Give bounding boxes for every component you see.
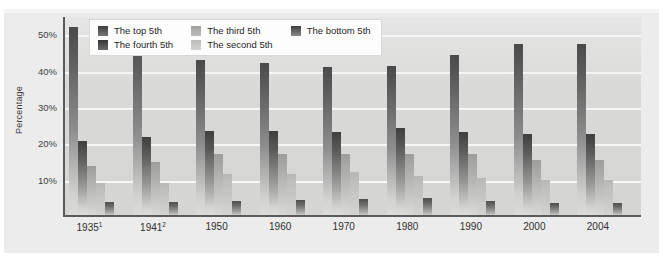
bar: [232, 201, 241, 215]
legend-item[interactable]: The fourth 5th: [98, 39, 173, 50]
bar: [214, 154, 223, 215]
bar: [260, 63, 269, 215]
bar: [613, 203, 622, 215]
legend-item[interactable]: The third 5th: [191, 25, 273, 36]
bar: [405, 154, 414, 215]
legend-swatch-icon: [291, 26, 301, 36]
legend-swatch-icon: [191, 26, 201, 36]
bar: [151, 162, 160, 215]
x-axis-tick-label: 1970: [333, 221, 355, 232]
bar: [414, 176, 423, 215]
bar: [133, 37, 142, 215]
bar: [350, 172, 359, 215]
bar-group: [514, 17, 559, 215]
bar: [604, 180, 613, 215]
y-axis-tick-label: 20%: [1, 138, 57, 149]
bar: [341, 154, 350, 215]
bar: [96, 183, 105, 215]
bar: [359, 199, 368, 215]
bar: [541, 180, 550, 215]
bar: [514, 44, 523, 215]
x-axis-tick-label: 2004: [587, 221, 609, 232]
bar: [550, 203, 559, 215]
bar: [196, 60, 205, 215]
chart-screenshot: Percentage 10%20%30%40%50% 1935119412195…: [0, 0, 663, 265]
bar: [486, 201, 495, 215]
bar: [586, 134, 595, 215]
bar: [87, 166, 96, 215]
x-axis-tick-label: 1990: [460, 221, 482, 232]
legend-swatch-icon: [98, 40, 108, 50]
legend-item-label: The second 5th: [207, 39, 273, 50]
legend-item-label: The third 5th: [207, 25, 260, 36]
legend-item[interactable]: The top 5th: [98, 25, 173, 36]
y-axis-tick-label: 40%: [1, 66, 57, 77]
bar: [477, 178, 486, 215]
bar: [105, 202, 114, 215]
bar-group: [450, 17, 495, 215]
x-axis-tick-label: 2000: [523, 221, 545, 232]
bar: [468, 154, 477, 215]
legend-item[interactable]: The second 5th: [191, 39, 273, 50]
bar: [169, 202, 178, 215]
bar: [160, 183, 169, 215]
bar: [577, 44, 586, 215]
bar: [423, 198, 432, 215]
x-label-footnote: 1: [99, 221, 103, 228]
y-axis-tick-labels: 10%20%30%40%50%: [0, 17, 57, 217]
legend-item-label: The fourth 5th: [114, 39, 173, 50]
legend-item-label: The top 5th: [114, 25, 162, 36]
y-axis-tick-label: 30%: [1, 102, 57, 113]
x-label-footnote: 2: [162, 221, 166, 228]
x-axis-tick-label: 1950: [205, 221, 227, 232]
y-axis-tick-label: 50%: [1, 29, 57, 40]
x-axis-tick-label: 19412: [140, 221, 166, 233]
bar: [269, 131, 278, 215]
bar: [323, 67, 332, 215]
bar-group: [387, 17, 432, 215]
panel-top-highlight: [4, 9, 659, 13]
bar: [532, 160, 541, 215]
legend-item-label: The bottom 5th: [307, 25, 371, 36]
bar: [523, 134, 532, 215]
legend-swatch-icon: [191, 40, 201, 50]
bar: [459, 132, 468, 215]
bar: [296, 200, 305, 215]
bar: [287, 174, 296, 215]
x-axis-tick-label: 1980: [396, 221, 418, 232]
bar: [595, 160, 604, 215]
y-axis-tick-label: 10%: [1, 175, 57, 186]
bar: [69, 27, 78, 215]
bar: [223, 174, 232, 215]
legend-item[interactable]: The bottom 5th: [291, 25, 371, 36]
legend-swatch-icon: [98, 26, 108, 36]
x-axis-tick-label: 1960: [269, 221, 291, 232]
bar: [387, 66, 396, 215]
x-axis-tick-labels: 19351194121950196019701980199020002004: [65, 221, 641, 243]
bar: [142, 137, 151, 215]
x-axis-tick-label: 19351: [77, 221, 103, 233]
bar: [332, 132, 341, 215]
bar: [278, 154, 287, 215]
bar: [450, 55, 459, 215]
chart-legend: The top 5thThe fourth 5thThe third 5thTh…: [89, 19, 382, 56]
bar: [205, 131, 214, 215]
bar: [78, 141, 87, 215]
bar-group: [577, 17, 622, 215]
bar: [396, 128, 405, 215]
